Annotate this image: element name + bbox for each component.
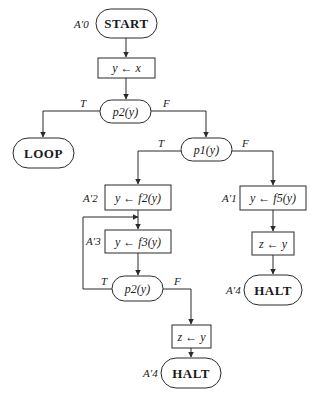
node-loop: LOOP <box>13 138 74 168</box>
edge-p2-bottom-false-to-z <box>163 289 191 324</box>
label-false: F <box>162 97 170 109</box>
node-halt-bottom: A′4 HALT <box>142 358 221 388</box>
edge-p2-true-to-loop <box>43 111 100 137</box>
node-tag: A′4 <box>142 367 158 379</box>
node-assign-f5: A′1 y ← f5(y) <box>221 186 306 210</box>
node-label: y ← x <box>111 61 141 75</box>
node-assign-init: y ← x <box>98 58 155 78</box>
node-tag: A′4 <box>225 284 241 296</box>
node-assign-f3: A′3 y ← f3(y) <box>85 230 171 253</box>
node-label: p2(y) <box>124 282 150 296</box>
label-false: F <box>173 275 181 287</box>
node-test-p1: p1(y) <box>181 138 232 161</box>
node-label: z ← y <box>177 330 207 344</box>
node-tag: A′0 <box>73 18 89 30</box>
node-label: HALT <box>172 366 210 381</box>
node-halt-right: A′4 HALT <box>225 275 302 305</box>
label-true: T <box>158 137 165 149</box>
node-label: y ← f5(y) <box>249 191 296 205</box>
label-true: T <box>80 97 87 109</box>
node-assign-f2: A′2 y ← f2(y) <box>82 185 171 210</box>
node-start: A′0 START <box>73 9 157 38</box>
node-tag: A′1 <box>221 192 237 204</box>
label-true: T <box>101 275 108 287</box>
node-tag: A′3 <box>85 235 101 247</box>
node-tag: A′2 <box>82 192 98 204</box>
node-test-p2-bottom: p2(y) <box>112 276 163 301</box>
node-label: START <box>104 16 148 31</box>
label-false: F <box>241 137 249 149</box>
node-label: p1(y) <box>193 143 219 157</box>
node-label: z ← y <box>258 237 288 251</box>
edge-p1-false-to-f5 <box>232 151 273 185</box>
edge-p1-true-to-f2 <box>138 151 181 184</box>
node-test-p2-top: p2(y) <box>100 100 151 123</box>
node-label: LOOP <box>24 146 63 161</box>
node-label: y ← f3(y) <box>114 235 161 249</box>
node-label: p2(y) <box>112 105 138 119</box>
node-label: y ← f2(y) <box>114 191 161 205</box>
node-assign-z-right: z ← y <box>252 232 294 255</box>
node-assign-z-bottom: z ← y <box>172 325 211 348</box>
flowchart-canvas: T F T F T F A′0 START y ← x p2(y) LOOP p… <box>0 0 316 398</box>
node-label: HALT <box>254 283 292 298</box>
edge-p2-false-to-p1 <box>151 111 206 137</box>
